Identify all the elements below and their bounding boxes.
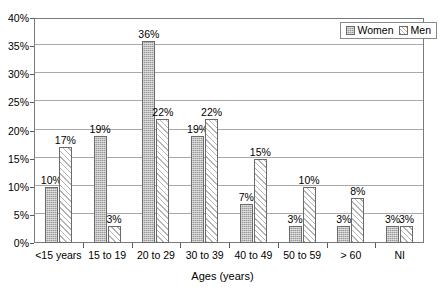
legend-label-women: Women <box>358 25 394 36</box>
y-axis-tick-label: 40% <box>0 13 29 23</box>
x-axis-tick-mark <box>83 243 84 248</box>
y-axis-tick-label: 20% <box>0 126 29 136</box>
bar-men <box>205 119 218 243</box>
legend-swatch-men-icon <box>399 26 408 35</box>
bar-value-label: 3% <box>395 214 418 225</box>
x-axis-category-label: > 60 <box>327 249 376 261</box>
y-axis-tick-label: 0% <box>0 238 29 248</box>
y-axis-tick-label: 30% <box>0 69 29 79</box>
bar-value-label: 10% <box>298 175 321 186</box>
y-axis-tick-label: 5% <box>0 210 29 220</box>
y-axis-tick-mark <box>30 243 34 244</box>
legend-label-men: Men <box>411 25 431 36</box>
x-axis-category-label: 20 to 29 <box>132 249 181 261</box>
bar-men <box>156 119 169 243</box>
bar-men <box>351 198 364 243</box>
x-axis-tick-mark <box>132 243 133 248</box>
bar-value-label: 17% <box>54 135 77 146</box>
bar-men <box>59 147 72 243</box>
bar-chart: 0%5%10%15%20%25%30%35%40% 10%17%19%3%36%… <box>0 0 445 298</box>
legend-item-men: Men <box>399 25 431 36</box>
x-axis-category-label: <15 years <box>34 249 83 261</box>
y-axis-tick-label: 15% <box>0 154 29 164</box>
bar-women <box>191 136 204 243</box>
y-axis-tick-label: 25% <box>0 97 29 107</box>
x-axis-tick-mark <box>375 243 376 248</box>
bar-value-label: 15% <box>249 147 272 158</box>
bar-value-label: 19% <box>89 124 112 135</box>
bar-women <box>289 226 302 243</box>
x-axis-category-label: 30 to 39 <box>180 249 229 261</box>
y-axis-tick-label: 10% <box>0 182 29 192</box>
bar-value-label: 3% <box>103 214 126 225</box>
bar-value-label: 22% <box>151 107 174 118</box>
bar-women <box>94 136 107 243</box>
bar-women <box>240 204 253 243</box>
bar-value-label: 36% <box>137 29 160 40</box>
x-axis-category-label: 15 to 19 <box>83 249 132 261</box>
x-axis-category-label: NI <box>375 249 424 261</box>
bar-women <box>337 226 350 243</box>
x-axis-tick-mark <box>327 243 328 248</box>
bar-men <box>400 226 413 243</box>
bars-layer: 10%17%19%3%36%22%19%22%7%15%3%10%3%8%3%3… <box>34 18 424 243</box>
bar-value-label: 22% <box>200 107 223 118</box>
bar-men <box>254 159 267 243</box>
legend-item-women: Women <box>346 25 394 36</box>
x-axis-tick-mark <box>180 243 181 248</box>
bar-value-label: 8% <box>346 186 369 197</box>
x-axis-category-label: 50 to 59 <box>278 249 327 261</box>
x-axis-category-label: 40 to 49 <box>229 249 278 261</box>
bar-women <box>386 226 399 243</box>
bar-men <box>303 187 316 243</box>
chart-legend: Women Men <box>340 22 437 39</box>
x-axis-title: Ages (years) <box>0 270 445 282</box>
bar-women <box>142 41 155 244</box>
legend-swatch-women-icon <box>346 26 355 35</box>
x-axis-tick-mark <box>229 243 230 248</box>
bar-women <box>45 187 58 243</box>
x-axis-tick-mark <box>278 243 279 248</box>
y-axis-tick-label: 35% <box>0 41 29 51</box>
bar-men <box>108 226 121 243</box>
